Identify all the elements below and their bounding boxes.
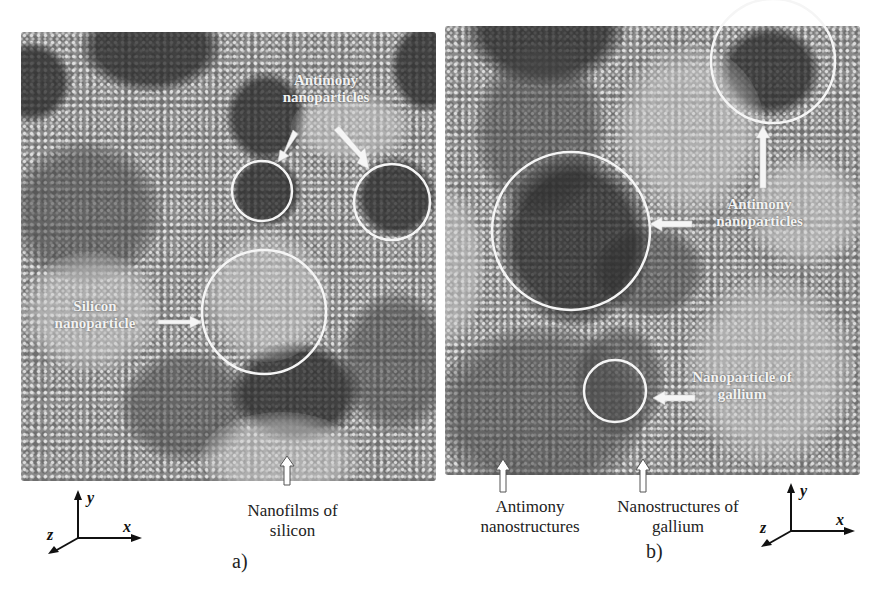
panel-b-label: b)	[646, 540, 663, 563]
antimony-nanoparticles-label: Antimony nanoparticles	[697, 196, 822, 230]
gallium-nanoparticle-label: Nanoparticle of gallium	[672, 369, 812, 403]
gallium-nanostructures-caption: Nanostructures of gallium	[603, 497, 753, 537]
label-line: Antimony	[697, 196, 822, 213]
x-axis-label: x	[835, 511, 844, 528]
caption-line: Nanostructures of	[603, 497, 753, 517]
caption-line: nanostructures	[460, 517, 600, 537]
arrow-up-icon	[496, 459, 650, 492]
label-line: gallium	[672, 386, 812, 403]
antimony-highlight-circle	[711, 0, 835, 123]
axes-icon: y x z	[758, 483, 858, 557]
z-axis-label: z	[759, 519, 767, 536]
gallium-highlight-circle	[584, 360, 646, 422]
caption-line: gallium	[603, 517, 753, 537]
caption-line: Antimony	[460, 497, 600, 517]
antimony-highlight-circle	[492, 152, 650, 310]
antimony-nanostructures-caption: Antimony nanostructures	[460, 497, 600, 537]
label-line: Nanoparticle of	[672, 369, 812, 386]
arrow-icon	[650, 126, 770, 405]
label-line: nanoparticles	[697, 213, 822, 230]
y-axis-label: y	[798, 483, 808, 500]
